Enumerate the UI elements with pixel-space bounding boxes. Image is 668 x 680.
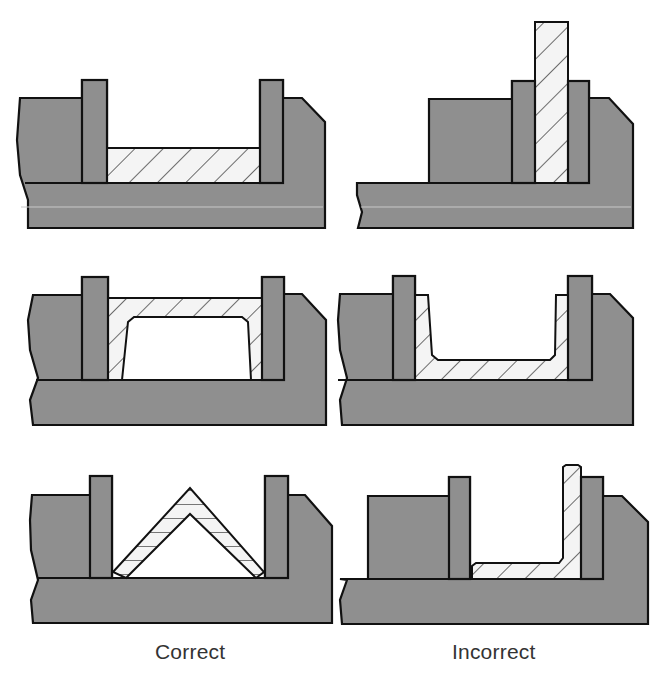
hatched-part: [535, 22, 568, 183]
hatched-part: [415, 295, 568, 380]
housing-body: [357, 81, 633, 228]
panel-correct-inverted-channel: [28, 277, 326, 425]
hatched-part: [107, 148, 260, 183]
panel-correct-v-shape: [30, 476, 332, 623]
guide-post: [82, 80, 107, 183]
guide-post: [90, 476, 112, 578]
panel-incorrect-vertical-plate: [357, 22, 633, 228]
guide-post: [260, 80, 283, 183]
caption-correct: Correct: [155, 640, 225, 664]
panel-incorrect-upright-channel: [338, 276, 633, 425]
panel-correct-flat-plate: [17, 80, 325, 228]
assembly-diagram: [0, 0, 668, 680]
hatched-part: [113, 488, 264, 578]
panel-incorrect-l-shape: [340, 465, 648, 624]
guide-post: [265, 476, 288, 578]
guide-post: [449, 477, 470, 579]
guide-post: [581, 477, 603, 579]
open-cavity: [122, 317, 251, 380]
guide-post: [568, 276, 592, 380]
guide-post: [82, 277, 108, 380]
caption-incorrect: Incorrect: [452, 640, 536, 664]
guide-post: [393, 276, 415, 380]
hatched-part: [472, 465, 581, 579]
guide-post: [568, 81, 589, 183]
guide-post: [512, 81, 535, 183]
panels-layer: [17, 22, 648, 624]
guide-post: [262, 277, 284, 380]
